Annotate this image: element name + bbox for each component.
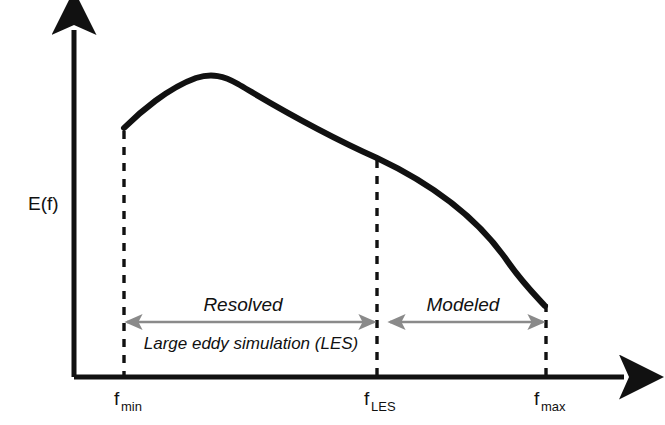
x-tick-subscript-f-les: LES xyxy=(371,399,396,414)
energy-spectrum-curve xyxy=(124,76,545,306)
region-label-modeled: Modeled xyxy=(427,294,501,315)
x-tick-base-f-min: f xyxy=(114,388,120,409)
y-axis-label: E(f) xyxy=(28,193,59,214)
region-label-resolved: Resolved xyxy=(203,294,284,315)
x-tick-subscript-f-max: max xyxy=(541,399,566,414)
spectrum-curve-group xyxy=(124,76,545,306)
labels-group: E(f) Resolved Modeled Large eddy simulat… xyxy=(28,193,566,414)
diagram-canvas: E(f) Resolved Modeled Large eddy simulat… xyxy=(0,0,665,425)
x-tick-label-f-min: f min xyxy=(114,388,142,414)
energy-spectrum-figure: E(f) Resolved Modeled Large eddy simulat… xyxy=(0,0,665,425)
x-tick-label-f-max: f max xyxy=(534,388,566,414)
x-tick-base-f-max: f xyxy=(534,388,540,409)
x-tick-label-f-les: f LES xyxy=(364,388,396,414)
x-tick-base-f-les: f xyxy=(364,388,370,409)
axes-group xyxy=(74,30,624,377)
method-label-les: Large eddy simulation (LES) xyxy=(144,334,359,353)
x-tick-subscript-f-min: min xyxy=(121,399,142,414)
